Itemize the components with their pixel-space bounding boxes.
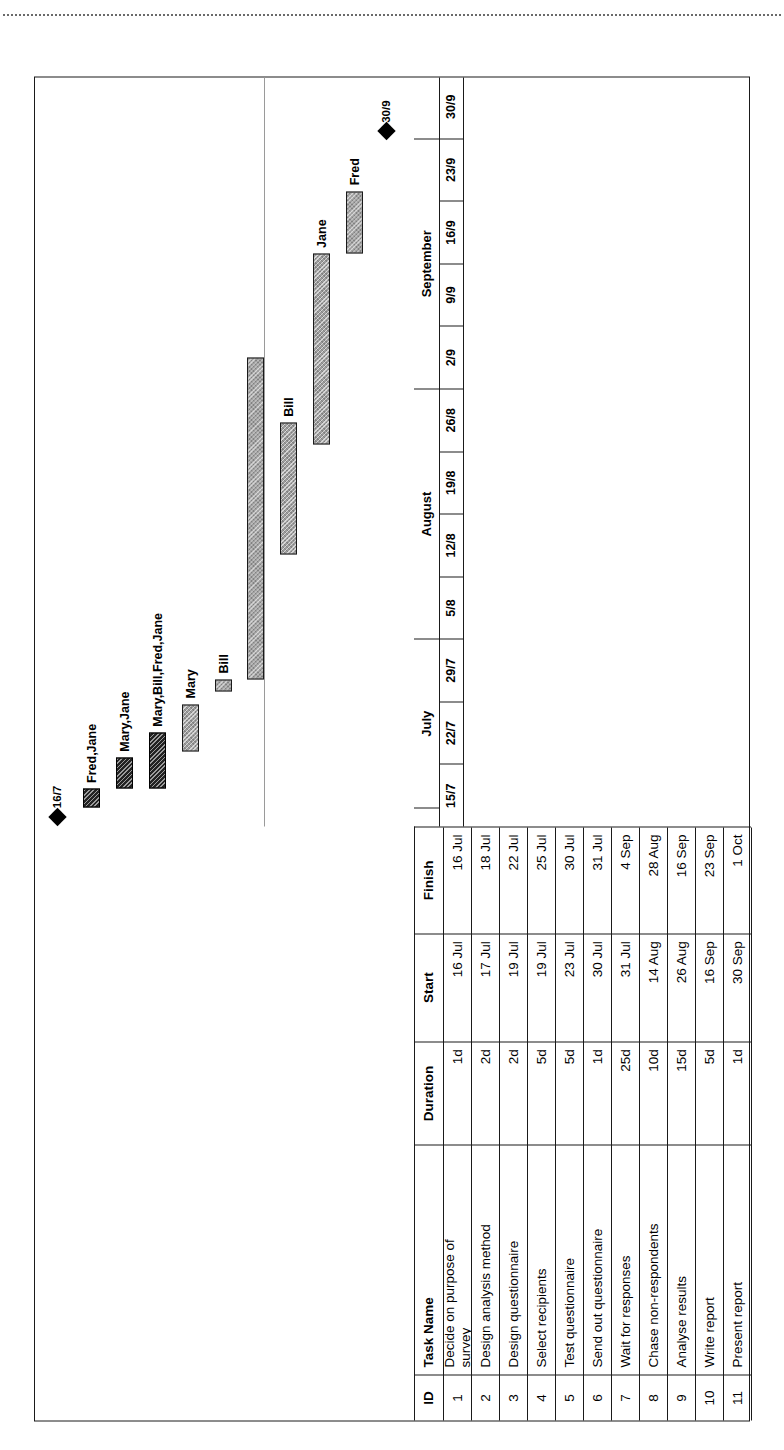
table-cell-name: Wait for responses — [612, 1145, 639, 1375]
column-header-finish: Finish — [415, 827, 443, 933]
timeline-month-august: August — [414, 388, 439, 638]
table-cell-start: 16 Jul — [444, 933, 471, 1041]
table-cell-id: 7 — [612, 1375, 639, 1421]
gantt-bar-label-task-2: Fred,Jane — [86, 724, 99, 783]
table-cell-duration: 10d — [640, 1041, 667, 1145]
table-cell-name: Analyse results — [668, 1145, 695, 1375]
table-cell-start: 26 Aug — [668, 933, 695, 1041]
table-cell-finish: 22 Jul — [500, 827, 527, 933]
task-table: IDTask NameDurationStartFinish1Decide on… — [414, 827, 751, 1421]
table-row[interactable]: 1Decide on purpose of survey1d16 Jul16 J… — [444, 828, 472, 1421]
table-cell-duration: 1d — [444, 1041, 471, 1145]
table-cell-start: 30 Sep — [724, 933, 751, 1041]
timeline-month-blank-4 — [414, 76, 439, 139]
table-cell-name: Send out questionnaire — [584, 1145, 611, 1375]
gantt-bar-label-task-4: Mary,Bill,Fred,Jane — [152, 613, 165, 727]
timeline-week-9-9: 9/9 — [439, 263, 463, 326]
gantt-bar-task-6[interactable] — [215, 679, 232, 692]
gantt-bar-task-8[interactable] — [280, 423, 297, 554]
table-cell-name: Chase non-respondents — [640, 1145, 667, 1375]
table-cell-name: Test questionnaire — [556, 1145, 583, 1375]
timeline-week-30-9: 30/9 — [439, 76, 463, 139]
table-cell-name: Design analysis method — [472, 1145, 499, 1375]
table-cell-finish: 28 Aug — [640, 827, 667, 933]
gantt-bar-label-task-8: Bill — [283, 397, 296, 416]
table-cell-start: 23 Jul — [556, 933, 583, 1041]
timeline-week-19-8: 19/8 — [439, 451, 463, 514]
timeline-month-row: JulyAugustSeptember — [414, 78, 440, 827]
table-cell-id: 8 — [640, 1375, 667, 1421]
table-cell-id: 6 — [584, 1375, 611, 1421]
gantt-bar-task-10[interactable] — [346, 191, 363, 254]
table-cell-id: 5 — [556, 1375, 583, 1421]
gantt-bar-task-7[interactable] — [247, 357, 264, 679]
gantt-bar-label-task-3: Mary,Jane — [119, 691, 132, 751]
dotted-rule-divider — [2, 14, 782, 16]
table-row[interactable]: 2Design analysis method2d17 Jul18 Jul — [472, 828, 500, 1421]
table-row[interactable]: 5Test questionnaire5d23 Jul30 Jul — [556, 828, 584, 1421]
table-cell-finish: 31 Jul — [584, 827, 611, 933]
gantt-frame-border: 16/7Fred,JaneMary,JaneMary,Bill,Fred,Jan… — [34, 77, 750, 1422]
table-cell-id: 4 — [528, 1375, 555, 1421]
table-cell-duration: 25d — [612, 1041, 639, 1145]
timeline-month-july: July — [414, 639, 439, 808]
gantt-milestone-task-1[interactable] — [49, 807, 67, 825]
timeline-week-29-7: 29/7 — [439, 639, 463, 702]
table-cell-duration: 2d — [472, 1041, 499, 1145]
table-cell-duration: 15d — [668, 1041, 695, 1145]
gantt-bar-task-9[interactable] — [313, 254, 330, 445]
table-row[interactable]: 4Select recipients5d19 Jul25 Jul — [528, 828, 556, 1421]
timeline-week-row: 15/722/729/75/812/819/826/82/99/916/923/… — [439, 78, 464, 827]
table-cell-duration: 5d — [696, 1041, 723, 1145]
table-cell-duration: 5d — [528, 1041, 555, 1145]
table-cell-duration: 1d — [724, 1041, 751, 1145]
gantt-milestone-label-task-1: 16/7 — [52, 786, 64, 808]
column-header-start: Start — [415, 933, 443, 1041]
table-cell-name: Design questionnaire — [500, 1145, 527, 1375]
timeline-week-2-9: 2/9 — [439, 326, 463, 389]
scan-artifact-top-text — [0, 0, 784, 12]
table-cell-finish: 25 Jul — [528, 827, 555, 933]
gantt-bar-task-5[interactable] — [182, 704, 199, 751]
table-cell-id: 9 — [668, 1375, 695, 1421]
table-cell-name: Present report — [724, 1145, 751, 1375]
table-cell-start: 31 Jul — [612, 933, 639, 1041]
timeline-month-blank-0 — [414, 808, 439, 827]
gantt-bar-task-3[interactable] — [116, 758, 133, 789]
table-row[interactable]: 8Chase non-respondents10d14 Aug28 Aug — [640, 828, 668, 1421]
gantt-bar-label-task-5: Mary — [185, 669, 198, 698]
table-cell-start: 30 Jul — [584, 933, 611, 1041]
table-header-row: IDTask NameDurationStartFinish — [415, 828, 444, 1421]
table-cell-id: 3 — [500, 1375, 527, 1421]
table-cell-name: Decide on purpose of survey — [444, 1145, 471, 1375]
table-cell-start: 14 Aug — [640, 933, 667, 1041]
table-row[interactable]: 3Design questionnaire2d19 Jul22 Jul — [500, 828, 528, 1421]
table-cell-finish: 18 Jul — [472, 827, 499, 933]
table-row[interactable]: 6Send out questionnaire1d30 Jul31 Jul — [584, 828, 612, 1421]
table-cell-finish: 16 Jul — [444, 827, 471, 933]
table-row[interactable]: 9Analyse results15d26 Aug16 Sep — [668, 828, 696, 1421]
column-header-name: Task Name — [415, 1145, 443, 1375]
table-cell-start: 17 Jul — [472, 933, 499, 1041]
gantt-bar-task-4[interactable] — [149, 733, 166, 789]
gantt-milestone-label-task-11: 30/9 — [381, 100, 393, 122]
timeline-week-15-7: 15/7 — [439, 764, 463, 827]
table-cell-name: Write report — [696, 1145, 723, 1375]
table-cell-finish: 30 Jul — [556, 827, 583, 933]
table-cell-name: Select recipients — [528, 1145, 555, 1375]
gantt-bar-label-task-10: Fred — [349, 158, 362, 185]
table-row[interactable]: 7Wait for responses25d31 Jul4 Sep — [612, 828, 640, 1421]
timeline-week-22-7: 22/7 — [439, 701, 463, 764]
table-cell-finish: 4 Sep — [612, 827, 639, 933]
timeline-week-12-8: 12/8 — [439, 514, 463, 577]
gantt-milestone-task-11[interactable] — [377, 122, 395, 140]
gantt-bar-task-2[interactable] — [83, 789, 100, 808]
table-cell-start: 16 Sep — [696, 933, 723, 1041]
table-row[interactable]: 11Present report1d30 Sep1 Oct — [724, 828, 752, 1421]
table-row[interactable]: 10Write report5d16 Sep23 Sep — [696, 828, 724, 1421]
timeline-month-september: September — [414, 138, 439, 388]
table-cell-finish: 23 Sep — [696, 827, 723, 933]
table-cell-start: 19 Jul — [528, 933, 555, 1041]
timeline-week-23-9: 23/9 — [439, 138, 463, 201]
table-cell-finish: 16 Sep — [668, 827, 695, 933]
